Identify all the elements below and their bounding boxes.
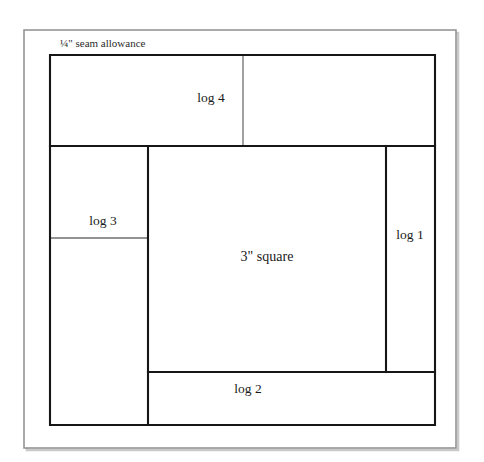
log-2-fill — [152, 372, 435, 425]
left-column-fill — [50, 146, 148, 425]
pattern-svg-canvas: ¼" seam allowance log 4 log 1 log 2 log … — [0, 0, 484, 462]
log-3-label: log 3 — [89, 213, 117, 228]
quilt-block-diagram: ¼" seam allowance log 4 log 1 log 2 log … — [0, 0, 484, 462]
log-1-label: log 1 — [396, 227, 423, 242]
seam-allowance-label: ¼" seam allowance — [60, 37, 146, 49]
center-square-label: 3" square — [241, 249, 294, 264]
log-4-label: log 4 — [197, 90, 225, 105]
log-1-fill — [386, 146, 435, 371]
log-2-label: log 2 — [234, 381, 261, 396]
